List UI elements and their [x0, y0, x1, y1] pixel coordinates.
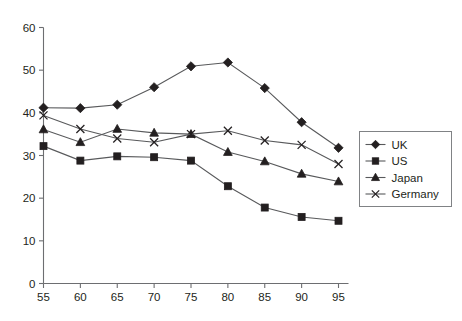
- marker-diamond: [39, 103, 48, 112]
- x-tick-label: 80: [221, 291, 234, 303]
- legend-label: US: [392, 155, 408, 167]
- marker-triangle: [39, 125, 48, 133]
- y-tick-label: 10: [23, 235, 36, 247]
- y-tick-label: 40: [23, 107, 36, 119]
- marker-diamond: [186, 62, 195, 71]
- x-tick-label: 70: [148, 291, 161, 303]
- x-tick-label: 90: [295, 291, 308, 303]
- marker-cross: [335, 160, 343, 168]
- legend-label: UK: [392, 139, 408, 151]
- marker-square: [298, 213, 305, 220]
- marker-triangle: [113, 124, 122, 132]
- marker-square: [261, 204, 268, 211]
- marker-square: [77, 157, 84, 164]
- x-tick-label: 55: [37, 291, 50, 303]
- y-tick-label: 30: [23, 150, 36, 162]
- x-axis: 556065707580859095: [37, 284, 348, 303]
- legend-label: Japan: [392, 172, 423, 184]
- marker-square: [151, 154, 158, 161]
- legend-label: Germany: [392, 188, 440, 200]
- marker-cross: [76, 125, 84, 133]
- chart-legend: UKUSJapanGermany: [360, 132, 452, 207]
- y-tick-label: 60: [23, 22, 36, 34]
- series-uk: [39, 58, 343, 153]
- line-chart: 0102030405060 556065707580859095 UKUSJap…: [0, 0, 462, 321]
- marker-square: [188, 157, 195, 164]
- x-tick-label: 75: [185, 291, 198, 303]
- marker-diamond: [334, 143, 343, 152]
- y-tick-label: 20: [23, 192, 36, 204]
- series-us: [40, 143, 342, 225]
- x-tick-label: 60: [74, 291, 87, 303]
- y-tick-label: 50: [23, 64, 36, 76]
- marker-diamond: [113, 100, 122, 109]
- x-tick-label: 65: [111, 291, 124, 303]
- marker-diamond: [223, 58, 232, 67]
- x-tick-label: 85: [258, 291, 271, 303]
- marker-square: [40, 143, 47, 150]
- data-series-group: [39, 58, 343, 224]
- marker-square: [372, 158, 378, 164]
- marker-triangle: [224, 147, 233, 155]
- marker-square: [335, 217, 342, 224]
- y-axis: 0102030405060: [23, 22, 44, 290]
- x-tick-label: 95: [332, 291, 345, 303]
- marker-diamond: [76, 104, 85, 113]
- marker-diamond: [150, 83, 159, 92]
- marker-square: [114, 153, 121, 160]
- y-tick-label: 0: [29, 278, 35, 290]
- marker-square: [224, 183, 231, 190]
- chart-canvas: 0102030405060 556065707580859095 UKUSJap…: [0, 0, 462, 321]
